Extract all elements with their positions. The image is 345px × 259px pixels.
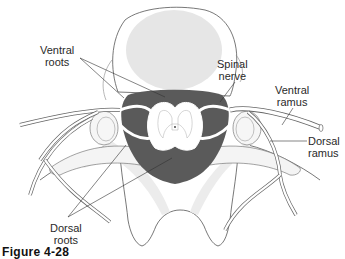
label-ventral-ramus-line1: Ventral (275, 84, 309, 96)
label-dorsal-ramus-line2: ramus (308, 147, 340, 159)
label-dorsal-ramus-line1: Dorsal (308, 135, 340, 147)
label-dorsal-roots-line1: Dorsal (50, 222, 82, 234)
facet-right (233, 111, 261, 145)
facet-left (90, 111, 118, 145)
label-ventral-roots-line1: Ventral (40, 44, 74, 56)
label-ventral-ramus-line2: ramus (275, 96, 309, 108)
label-ventral-roots-line2: roots (40, 56, 74, 68)
dorsal-ramus-right-branch-inner (225, 175, 280, 230)
central-canal (174, 126, 176, 128)
label-ventral-roots: Ventral roots (40, 44, 74, 68)
ventral-ramus-cut-end (319, 125, 323, 132)
label-spinal-nerve-line2: nerve (217, 70, 248, 82)
vertebral-body-center (126, 10, 222, 90)
label-spinal-nerve-line1: Spinal (217, 58, 248, 70)
figure-caption: Figure 4-28 (2, 245, 69, 259)
label-spinal-nerve: Spinal nerve (217, 58, 248, 82)
label-dorsal-ramus: Dorsal ramus (308, 135, 340, 159)
label-dorsal-roots: Dorsal roots (50, 222, 82, 246)
label-ventral-ramus: Ventral ramus (275, 84, 309, 108)
